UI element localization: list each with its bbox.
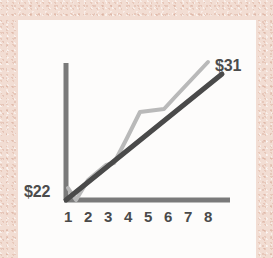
x-tick-8: 8: [198, 208, 218, 230]
image-root: $22 $31 1 2 3 4 5 6 7 8: [0, 0, 273, 258]
x-tick-5: 5: [138, 208, 158, 230]
start-value-label: $22: [24, 183, 50, 201]
end-value-label: $31: [215, 57, 241, 75]
data-line-trend: [66, 74, 222, 200]
x-tick-7: 7: [178, 208, 198, 230]
x-tick-1: 1: [58, 208, 78, 230]
chart-card: $22 $31 1 2 3 4 5 6 7 8: [18, 20, 256, 258]
x-axis-tick-labels: 1 2 3 4 5 6 7 8: [58, 208, 234, 230]
x-tick-3: 3: [98, 208, 118, 230]
x-tick-6: 6: [158, 208, 178, 230]
x-tick-2: 2: [78, 208, 98, 230]
x-tick-4: 4: [118, 208, 138, 230]
